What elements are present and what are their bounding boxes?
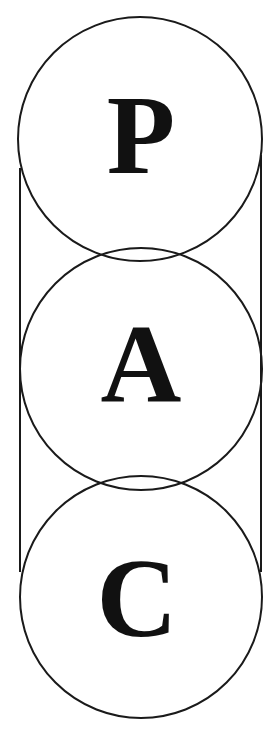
letter-c: C xyxy=(97,536,178,660)
letter-a: A xyxy=(101,302,182,426)
pac-diagram: P A C xyxy=(0,0,279,739)
circle-c: C xyxy=(20,476,262,718)
letter-p: P xyxy=(107,73,175,197)
circle-p: P xyxy=(18,17,262,261)
circle-a: A xyxy=(20,248,262,490)
